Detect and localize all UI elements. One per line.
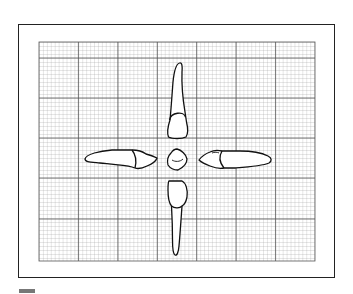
- tooth-right-view: [199, 150, 271, 168]
- scale-bar: [19, 289, 35, 293]
- tooth-diagram: [0, 0, 353, 294]
